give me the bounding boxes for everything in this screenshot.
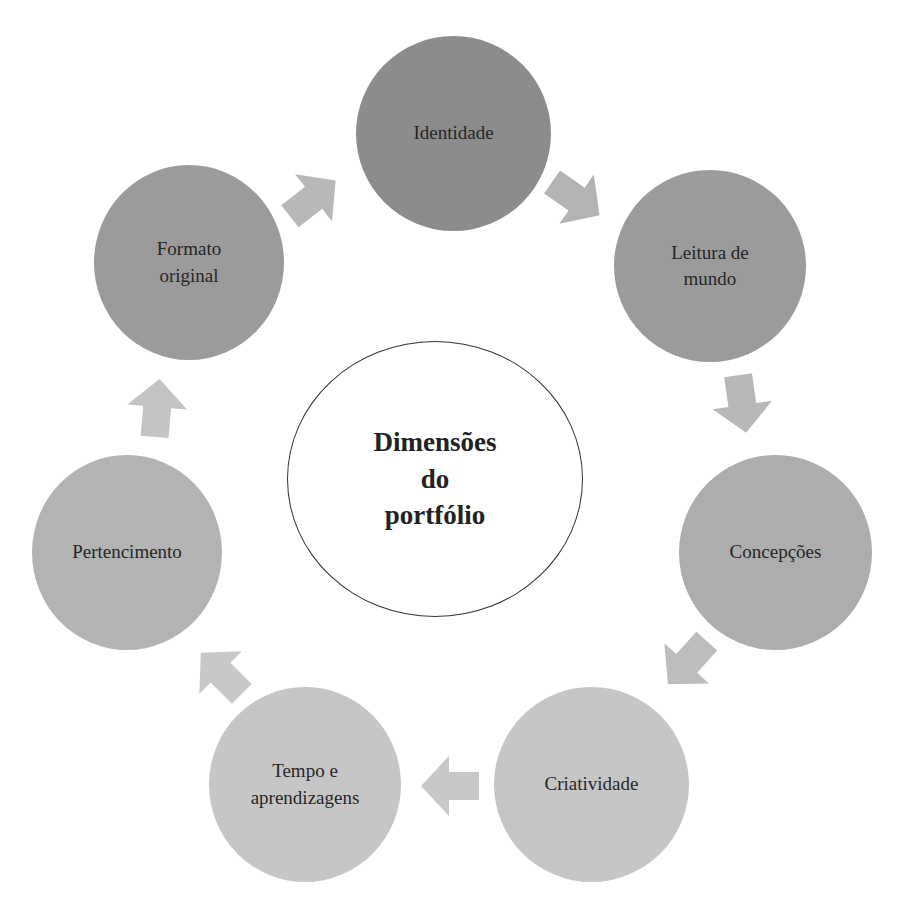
node-label: Tempo e aprendizagens	[251, 758, 360, 810]
node-label: Pertencimento	[72, 539, 182, 565]
arrow-identidade-to-leitura-icon	[535, 157, 617, 239]
node-label: Leitura de mundo	[671, 240, 749, 292]
node-criatividade: Criatividade	[494, 687, 689, 882]
center-title: Dimensões do portfólio	[374, 424, 497, 533]
node-label: Criatividade	[545, 771, 639, 797]
arrow-formato-to-identidade-icon	[271, 157, 354, 240]
node-tempo-e-aprendizagens: Tempo e aprendizagens	[209, 687, 401, 882]
node-label: Formato original	[157, 236, 221, 288]
arrow-pertencimento-to-formato-icon	[125, 376, 190, 439]
node-label: Identidade	[413, 120, 493, 146]
arrow-tempo-to-pertencimento-icon	[180, 632, 263, 715]
node-label: Concepções	[730, 539, 822, 565]
node-concepcoes: Concepções	[679, 455, 872, 650]
node-pertencimento: Pertencimento	[32, 455, 222, 650]
node-identidade: Identidade	[356, 36, 551, 231]
arrow-leitura-to-concepcoes-icon	[708, 371, 775, 437]
node-leitura-de-mundo: Leitura de mundo	[614, 170, 806, 362]
arrow-concepcoes-to-criatividade-icon	[646, 621, 729, 704]
center-circle: Dimensões do portfólio	[287, 341, 583, 617]
node-formato-original: Formato original	[94, 165, 284, 360]
arrow-criatividade-to-tempo-icon	[421, 756, 479, 816]
